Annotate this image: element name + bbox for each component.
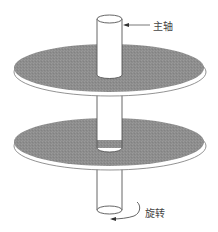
spindle-label: 主轴: [153, 18, 173, 33]
spindle-top: [97, 15, 122, 79]
spindle-label-arrow: [123, 23, 150, 27]
disk-diagram: [0, 0, 218, 232]
rotation-label: 旋转: [145, 205, 165, 220]
